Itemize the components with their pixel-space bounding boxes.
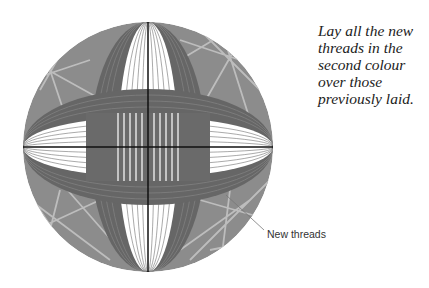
- new-threads-label: New threads: [267, 228, 326, 240]
- instruction-caption: Lay all the new threads in the second co…: [318, 22, 428, 107]
- thread-wrapped-ball-diagram: [0, 0, 300, 288]
